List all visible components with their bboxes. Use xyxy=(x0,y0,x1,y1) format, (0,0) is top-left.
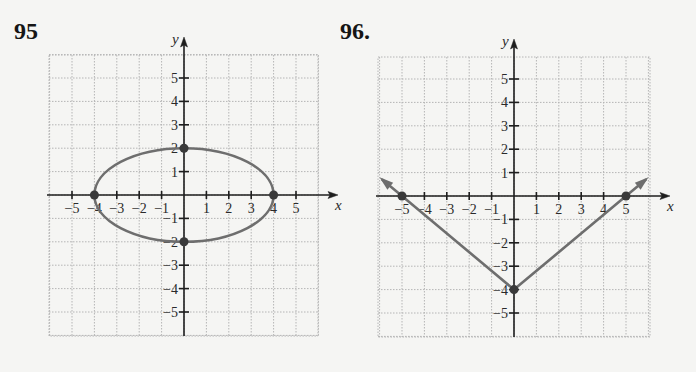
x-tick-label: 3 xyxy=(248,201,255,216)
plotted-point xyxy=(269,191,278,200)
plotted-point xyxy=(398,192,407,201)
y-tick-label: −2 xyxy=(493,236,508,251)
y-tick-label: −5 xyxy=(163,305,178,320)
x-tick-label: 5 xyxy=(623,202,630,217)
x-tick-label: −3 xyxy=(109,201,124,216)
x-tick-label: −5 xyxy=(65,201,80,216)
y-tick-label: −1 xyxy=(163,211,178,226)
y-tick-label: −3 xyxy=(493,259,508,274)
y-tick-label: 5 xyxy=(501,72,508,87)
y-tick-label: 3 xyxy=(171,118,178,133)
x-axis-label: x xyxy=(666,198,674,214)
x-tick-label: −4 xyxy=(87,201,102,216)
x-tick-label: −3 xyxy=(439,202,454,217)
x-tick-label: 1 xyxy=(203,201,210,216)
y-tick-label: −1 xyxy=(493,212,508,227)
y-tick-label: −3 xyxy=(163,258,178,273)
plotted-point xyxy=(622,192,631,201)
x-tick-label: −5 xyxy=(395,202,410,217)
y-tick-label: 5 xyxy=(171,71,178,86)
axes xyxy=(47,37,338,336)
y-tick-label: 2 xyxy=(501,142,508,157)
y-tick-label: −4 xyxy=(493,283,508,298)
y-tick-label: 1 xyxy=(171,165,178,180)
y-tick-label: −4 xyxy=(163,282,178,297)
x-tick-label: 2 xyxy=(225,201,232,216)
plotted-point xyxy=(510,285,519,294)
x-tick-label: 1 xyxy=(533,202,540,217)
plotted-point xyxy=(90,191,99,200)
x-tick-label: −2 xyxy=(132,201,147,216)
x-axis-label: x xyxy=(334,197,342,213)
y-tick-label: 3 xyxy=(501,119,508,134)
graph-95: −5−4−3−2−112345−5−4−3−2−112345xy xyxy=(47,31,342,336)
y-axis-label: y xyxy=(170,31,179,47)
y-axis-label: y xyxy=(500,33,509,49)
x-tick-label: 3 xyxy=(578,202,585,217)
plotted-point xyxy=(180,144,189,153)
x-tick-label: −2 xyxy=(462,202,477,217)
y-tick-label: 4 xyxy=(171,94,178,109)
x-tick-label: 2 xyxy=(555,202,562,217)
plotted-point xyxy=(180,237,189,246)
graph-96: −5−4−3−2−112345−5−4−3−2−112345xy xyxy=(376,33,674,337)
y-tick-label: 1 xyxy=(501,166,508,181)
graphs-canvas: −5−4−3−2−112345−5−4−3−2−112345xy−5−4−3−2… xyxy=(0,0,696,372)
x-tick-label: 5 xyxy=(293,201,300,216)
y-tick-label: 4 xyxy=(501,95,508,110)
y-tick-label: −5 xyxy=(493,306,508,321)
